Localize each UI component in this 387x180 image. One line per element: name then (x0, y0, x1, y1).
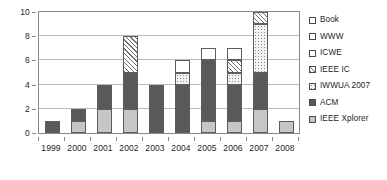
legend-item-label: ACM (320, 99, 339, 107)
legend-swatch-book (309, 17, 316, 24)
y-axis-tick-mark (32, 36, 36, 37)
x-axis: 1999200020012002200320042005200620072008 (38, 137, 300, 155)
legend-item[interactable]: Book (309, 12, 387, 29)
y-axis-tick-mark (32, 133, 36, 134)
y-axis-tick-label: 0 (25, 129, 30, 138)
legend-swatch-acm (309, 99, 316, 106)
bar-segment[interactable] (71, 121, 86, 133)
x-axis-tick-label: 2008 (272, 144, 298, 153)
x-axis-tick-label: 2007 (246, 144, 272, 153)
bar-series-group (39, 12, 299, 133)
x-axis-tick-label: 2000 (64, 144, 90, 153)
y-axis-tick-mark (32, 60, 36, 61)
x-axis-tick-mark (272, 137, 273, 141)
x-axis-tick-mark (90, 137, 91, 141)
x-axis-tick-label: 2006 (220, 144, 246, 153)
x-axis-tick-label: 1999 (38, 144, 64, 153)
bar-segment[interactable] (175, 85, 190, 133)
x-axis-tick-label: 2004 (168, 144, 194, 153)
y-axis-tick-label: 4 (25, 80, 30, 89)
y-axis-tick-mark (32, 109, 36, 110)
bar-column[interactable] (201, 12, 216, 133)
x-axis-tick-mark (168, 137, 169, 141)
bar-column[interactable] (279, 12, 294, 133)
x-axis-tick-mark (116, 137, 117, 141)
bar-segment[interactable] (149, 85, 164, 133)
x-axis-tick-mark (142, 137, 143, 141)
legend-item[interactable]: ICWE (309, 45, 387, 62)
bar-segment[interactable] (97, 109, 112, 133)
legend-swatch-www (309, 33, 316, 40)
bar-segment[interactable] (123, 109, 138, 133)
bar-segment[interactable] (227, 73, 242, 85)
legend-item-label: IWWUA 2007 (320, 82, 370, 90)
bar-segment[interactable] (201, 48, 216, 60)
x-axis-tick-label: 2001 (90, 144, 116, 153)
bar-column[interactable] (45, 12, 60, 133)
bar-column[interactable] (253, 12, 268, 133)
bar-segment[interactable] (201, 121, 216, 133)
chart-root: 0246810 19992000200120022003200420052006… (0, 0, 387, 180)
legend-swatch-icwe (309, 50, 316, 57)
x-axis-tick-mark (194, 137, 195, 141)
bar-column[interactable] (123, 12, 138, 133)
bar-segment[interactable] (227, 60, 242, 72)
y-axis-tick-mark (32, 12, 36, 13)
plot-area (38, 11, 300, 134)
x-axis-tick-label: 2005 (194, 144, 220, 153)
x-axis-tick-mark (220, 137, 221, 141)
bar-segment[interactable] (123, 36, 138, 72)
bar-segment[interactable] (279, 121, 294, 133)
x-axis-tick-mark (38, 137, 39, 141)
x-axis-tick-mark (64, 137, 65, 141)
legend-item-label: WWW (320, 33, 343, 41)
bar-segment[interactable] (253, 73, 268, 109)
bar-column[interactable] (175, 12, 190, 133)
legend-item[interactable]: ACM (309, 95, 387, 112)
bar-column[interactable] (97, 12, 112, 133)
bar-segment[interactable] (227, 85, 242, 121)
x-axis-tick-label: 2002 (116, 144, 142, 153)
legend-item-label: Book (320, 16, 339, 24)
bar-segment[interactable] (123, 73, 138, 109)
x-axis-tick-label: 2003 (142, 144, 168, 153)
y-axis-tick-label: 10 (20, 8, 30, 17)
legend: BookWWWICWEIEEE ICIWWUA 2007ACMIEEE Xplo… (309, 12, 387, 128)
bar-segment[interactable] (175, 73, 190, 85)
bar-segment[interactable] (175, 60, 190, 72)
legend-item[interactable]: IEEE Xplorer (309, 111, 387, 128)
y-axis-tick-label: 6 (25, 56, 30, 65)
bar-segment[interactable] (253, 109, 268, 133)
x-axis-tick-mark (246, 137, 247, 141)
legend-item[interactable]: WWW (309, 29, 387, 46)
bar-column[interactable] (71, 12, 86, 133)
bar-column[interactable] (227, 12, 242, 133)
legend-swatch-ieeeic (309, 66, 316, 73)
y-axis-tick-label: 8 (25, 32, 30, 41)
bar-segment[interactable] (45, 121, 60, 133)
legend-swatch-iwwua (309, 83, 316, 90)
y-axis: 0246810 (0, 0, 36, 145)
legend-item-label: IEEE Xplorer (320, 115, 369, 123)
bar-segment[interactable] (253, 12, 268, 24)
legend-item-label: IEEE IC (320, 66, 350, 74)
bar-segment[interactable] (97, 85, 112, 109)
bar-segment[interactable] (227, 48, 242, 60)
bar-segment[interactable] (227, 121, 242, 133)
legend-item[interactable]: IEEE IC (309, 62, 387, 79)
bar-segment[interactable] (71, 109, 86, 121)
y-axis-tick-mark (32, 85, 36, 86)
x-axis-tick-mark (298, 137, 299, 141)
bar-column[interactable] (149, 12, 164, 133)
legend-swatch-xplorer (309, 116, 316, 123)
legend-item[interactable]: IWWUA 2007 (309, 78, 387, 95)
bar-segment[interactable] (253, 24, 268, 72)
bar-segment[interactable] (201, 60, 216, 121)
y-axis-tick-label: 2 (25, 105, 30, 114)
legend-item-label: ICWE (320, 49, 342, 57)
